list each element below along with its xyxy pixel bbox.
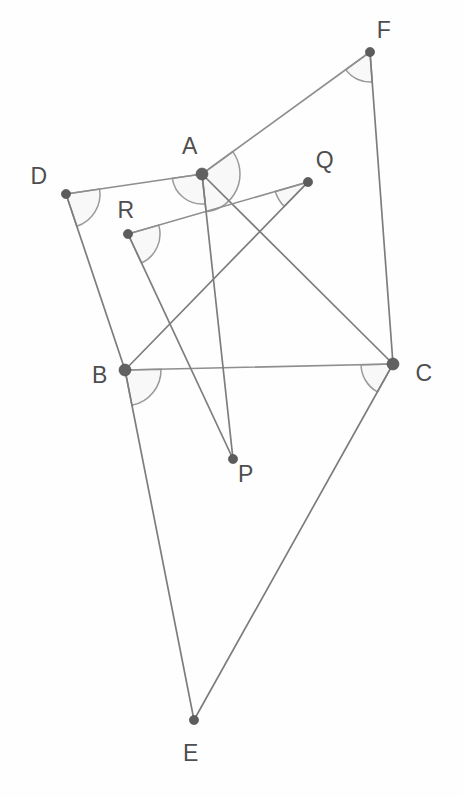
vertex-r[interactable] [123,229,132,238]
segment-ac [202,174,393,364]
vertex-e[interactable] [189,715,198,724]
point-label-q: Q [316,147,334,173]
vertices-layer [61,47,399,724]
point-label-c: C [415,360,432,386]
angle-C [361,364,393,392]
vertex-f[interactable] [365,47,374,56]
point-label-p: P [238,461,254,487]
vertex-d[interactable] [61,189,70,198]
angle-arcs-layer [66,52,393,405]
segments-layer [66,52,393,720]
point-label-a: A [182,133,198,159]
segment-fc [370,52,393,364]
segment-rp [128,234,233,459]
point-label-e: E [183,740,199,766]
vertex-c[interactable] [387,358,399,370]
geometry-canvas: ABCDEFPQR [0,0,463,797]
segment-qb [125,182,308,370]
geometry-figure: ABCDEFPQR [0,0,463,797]
angle-Q [275,182,308,206]
segment-ap [202,174,233,459]
vertex-q[interactable] [303,177,312,186]
point-label-f: F [377,17,392,43]
vertex-a[interactable] [196,168,208,180]
segment-af [202,52,370,174]
segment-bc [125,364,393,370]
segment-db [66,194,125,370]
point-label-r: R [117,197,134,223]
point-label-b: B [92,362,108,388]
vertex-p[interactable] [228,454,237,463]
vertex-b[interactable] [119,364,131,376]
segment-ce [194,364,393,720]
point-label-d: D [30,163,47,189]
segment-be [125,370,194,720]
